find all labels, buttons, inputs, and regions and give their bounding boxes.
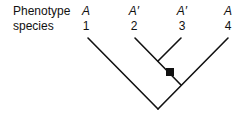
branch-to-species-3: [158, 38, 181, 61]
phylogenetic-tree: [0, 0, 246, 120]
branch-to-species-1: [88, 38, 158, 109]
character-change-marker-icon: [166, 68, 174, 76]
